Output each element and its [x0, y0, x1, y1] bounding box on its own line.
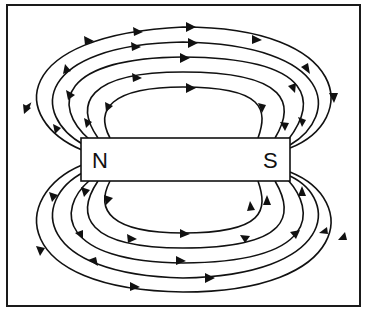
magnetic-field-diagram: N S: [0, 0, 366, 313]
field-lines-lower: [37, 165, 331, 292]
south-pole-label: S: [263, 148, 278, 173]
field-line: [69, 57, 303, 140]
bar-magnet: N S: [81, 138, 290, 181]
field-line: [88, 72, 285, 138]
field-line: [105, 87, 262, 138]
field-line: [37, 165, 331, 292]
field-line: [105, 181, 262, 233]
field-lines-upper: [37, 27, 331, 150]
arrows-upper: [23, 22, 338, 134]
magnet-body: [81, 138, 290, 181]
field-line: [88, 181, 285, 248]
north-pole-label: N: [92, 148, 108, 173]
